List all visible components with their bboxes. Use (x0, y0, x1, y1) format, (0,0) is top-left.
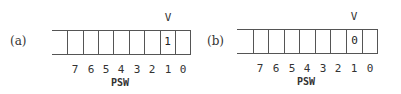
bit-number: 3 (315, 62, 331, 75)
bit-number: 7 (252, 62, 268, 75)
panel-label: (a) (10, 34, 27, 48)
cell-divider (299, 29, 300, 54)
flag-name-label: V (160, 11, 176, 24)
register-top-border (52, 30, 191, 31)
v-bit-value: 1 (160, 35, 175, 48)
cell-divider (330, 29, 331, 54)
bit-number: 4 (113, 63, 129, 76)
bit-number: 0 (175, 63, 191, 76)
flag-name-label: V (346, 10, 362, 23)
panel-label: (b) (207, 34, 224, 48)
bit-number: 3 (129, 63, 145, 76)
cell-divider (377, 29, 378, 54)
cell-divider (129, 30, 130, 55)
v-bit-value: 0 (347, 34, 362, 47)
bit-number: 1 (346, 62, 362, 75)
bit-number: 5 (284, 62, 300, 75)
cell-divider (253, 29, 254, 54)
cell-divider (113, 30, 114, 55)
bit-number: 6 (268, 62, 284, 75)
bit-number: 0 (362, 62, 378, 75)
cell-divider (362, 29, 363, 54)
cell-divider (144, 30, 145, 55)
register-top-border (237, 29, 377, 30)
bit-number: 2 (330, 62, 346, 75)
register-bottom-border (52, 54, 191, 55)
bit-number: 7 (67, 63, 83, 76)
cell-divider (190, 30, 191, 55)
cell-divider (83, 30, 84, 55)
register-bottom-border (237, 53, 377, 54)
cell-divider (284, 29, 285, 54)
cell-divider (98, 30, 99, 55)
bit-number: 5 (98, 63, 114, 76)
bit-number: 2 (144, 63, 160, 76)
register-name: PSW (111, 77, 129, 88)
bit-number: 4 (299, 62, 315, 75)
cell-divider (175, 30, 176, 55)
register-name: PSW (297, 76, 315, 87)
cell-divider (268, 29, 269, 54)
cell-divider (315, 29, 316, 54)
cell-divider (67, 30, 68, 55)
bit-number: 1 (160, 63, 176, 76)
bit-number: 6 (83, 63, 99, 76)
